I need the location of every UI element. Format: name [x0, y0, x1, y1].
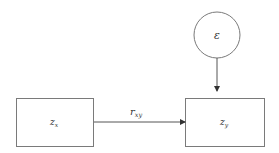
zx-label: zx	[49, 117, 59, 128]
rxy-label: rxy	[130, 106, 142, 119]
error-label: ε	[214, 29, 220, 42]
zx-node: zx	[17, 99, 94, 147]
zy-label: zy	[219, 117, 229, 129]
zy-node: zy	[186, 99, 265, 147]
error-node: ε	[194, 12, 240, 58]
path-diagram: ε zx zy rxy	[0, 0, 279, 153]
